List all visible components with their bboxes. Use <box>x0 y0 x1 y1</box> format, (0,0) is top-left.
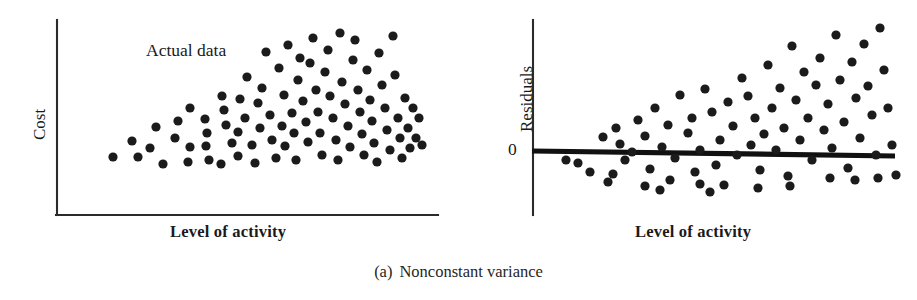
data-point <box>615 139 624 148</box>
data-point <box>843 163 852 172</box>
data-point <box>695 179 704 188</box>
data-point <box>345 142 354 151</box>
data-point <box>233 151 242 160</box>
data-point <box>891 170 900 179</box>
data-point <box>811 80 820 89</box>
x-axis-label-level-of-activity: Level of activity <box>170 222 286 242</box>
data-point <box>825 173 834 182</box>
axes-right <box>532 20 895 215</box>
data-point <box>561 155 570 164</box>
data-point <box>247 140 256 149</box>
caption-index: (a) <box>374 262 392 281</box>
data-point <box>743 91 752 100</box>
data-point <box>257 83 266 92</box>
zero-tick-label: 0 <box>508 139 517 160</box>
data-point <box>695 145 704 154</box>
data-point <box>737 73 746 82</box>
data-point <box>397 153 406 162</box>
data-point <box>390 70 399 79</box>
data-point <box>603 177 612 186</box>
zero-reference-line <box>532 151 895 156</box>
data-point <box>350 35 359 44</box>
data-point <box>293 75 302 84</box>
data-point <box>620 155 629 164</box>
data-point <box>279 90 288 99</box>
data-point <box>388 31 397 40</box>
data-point <box>573 158 582 167</box>
data-point <box>145 143 154 152</box>
figure-caption: (a)Nonconstant variance <box>0 262 917 282</box>
data-point <box>280 141 289 150</box>
data-point <box>400 93 409 102</box>
data-point <box>365 95 374 104</box>
data-point <box>108 152 117 161</box>
data-point <box>313 107 322 116</box>
data-point <box>700 84 709 93</box>
data-point <box>204 155 213 164</box>
data-point <box>819 125 828 134</box>
annotation-actual-data: Actual data <box>146 40 226 61</box>
data-point <box>683 128 692 137</box>
data-point <box>158 159 167 168</box>
data-point <box>202 128 211 137</box>
data-point <box>127 136 136 145</box>
data-point <box>771 145 780 154</box>
data-point <box>611 123 620 132</box>
data-point <box>340 99 349 108</box>
data-point <box>333 155 342 164</box>
data-point <box>289 128 298 137</box>
data-point <box>253 98 262 107</box>
data-point <box>707 107 716 116</box>
data-point <box>265 110 274 119</box>
data-point <box>348 55 357 64</box>
data-point <box>847 57 856 66</box>
data-point <box>867 110 876 119</box>
data-point <box>675 90 684 99</box>
data-point <box>775 83 784 92</box>
data-point <box>267 135 276 144</box>
data-point <box>640 181 649 190</box>
data-point <box>380 103 389 112</box>
data-point <box>173 116 182 125</box>
data-point <box>417 140 426 149</box>
data-point <box>719 180 728 189</box>
data-point <box>335 28 344 37</box>
data-point <box>395 133 404 142</box>
data-point <box>728 121 737 130</box>
data-point <box>759 129 768 138</box>
data-point <box>598 132 607 141</box>
data-point <box>250 158 259 167</box>
data-point <box>835 75 844 84</box>
data-point <box>298 96 307 105</box>
data-point <box>687 113 696 122</box>
data-point <box>883 103 892 112</box>
data-point <box>665 175 674 184</box>
data-point <box>815 53 824 62</box>
data-point <box>393 113 402 122</box>
data-point <box>217 91 226 100</box>
data-point <box>271 153 280 162</box>
data-point <box>325 91 334 100</box>
data-point <box>240 113 249 122</box>
data-point <box>227 138 236 147</box>
data-point <box>308 33 317 42</box>
data-point <box>408 103 417 112</box>
data-point <box>795 135 804 144</box>
figure-nonconstant-variance: Cost Actual data Level of activity Resid… <box>0 0 917 300</box>
data-point <box>823 99 832 108</box>
data-point <box>320 67 329 76</box>
data-point <box>242 72 251 81</box>
data-point <box>372 157 381 166</box>
data-point <box>200 114 209 123</box>
data-point <box>608 169 617 178</box>
data-point <box>663 120 672 129</box>
data-point <box>807 155 816 164</box>
data-point <box>261 47 270 56</box>
data-point <box>711 160 720 169</box>
data-point <box>791 95 800 104</box>
data-point <box>133 152 142 161</box>
data-point <box>283 40 292 49</box>
residual-points <box>561 23 900 196</box>
data-point <box>863 81 872 90</box>
data-point <box>750 113 759 122</box>
